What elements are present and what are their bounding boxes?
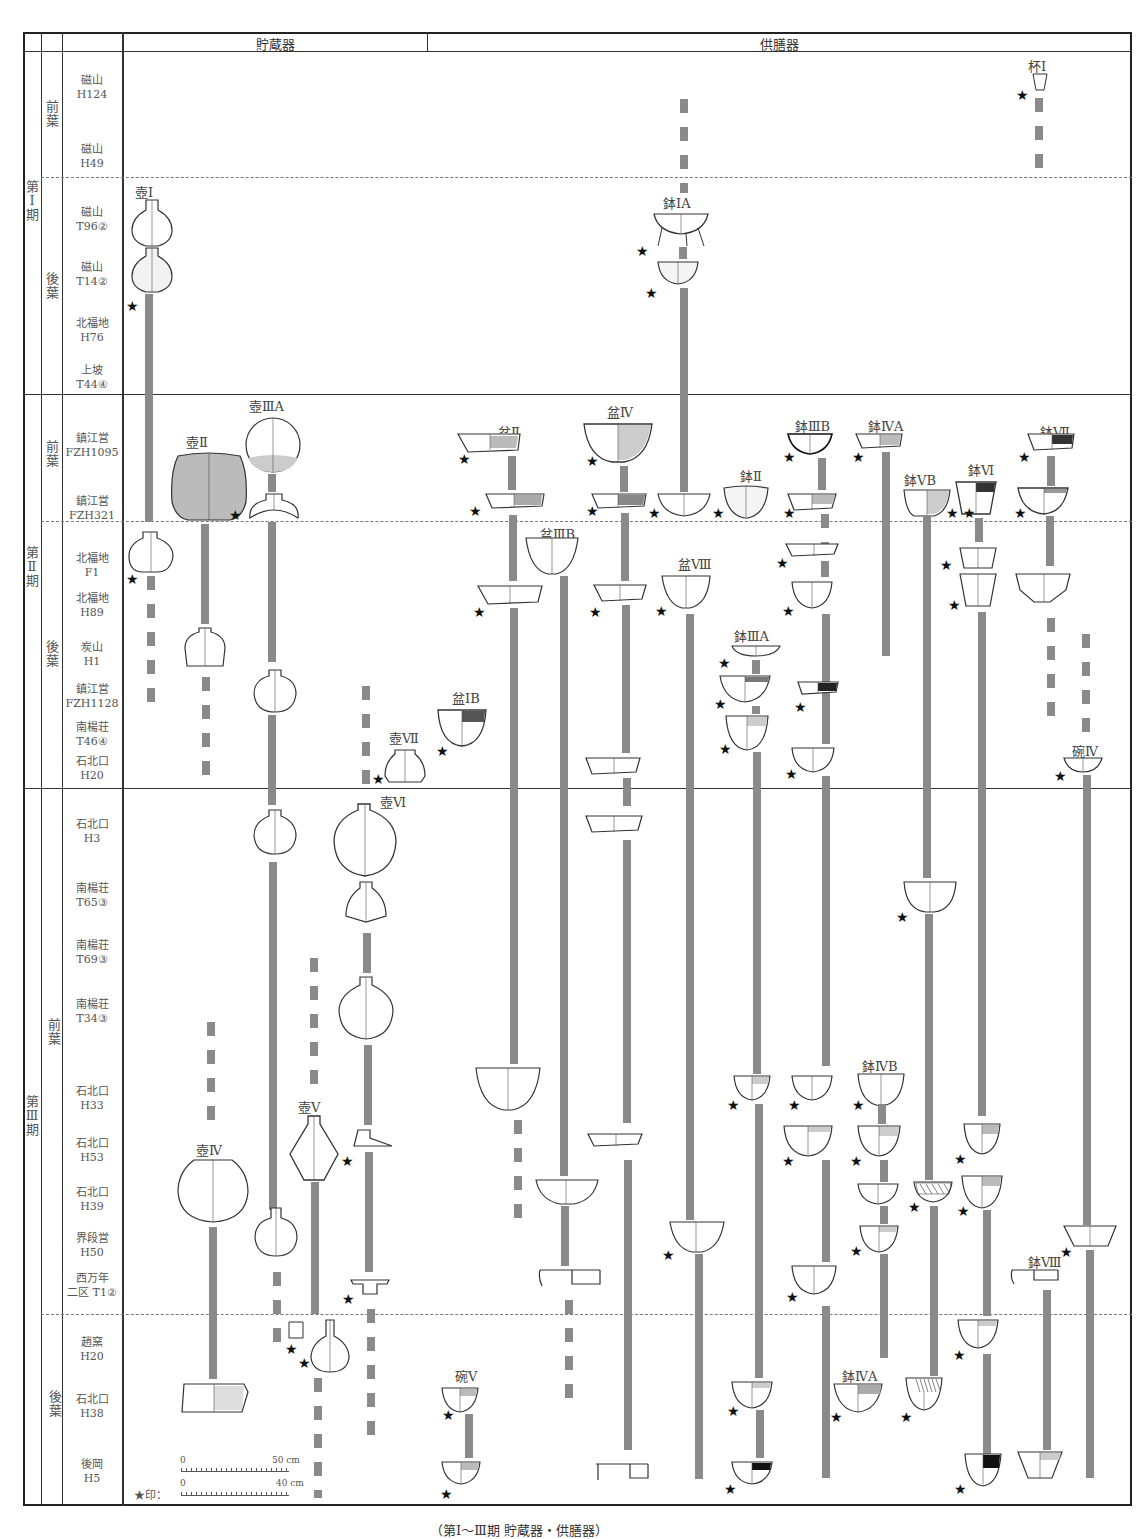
vessel-cup-icon	[1032, 73, 1048, 91]
continuity-bar	[363, 933, 371, 973]
vessel-jar-icon	[250, 808, 300, 858]
continuity-bar	[822, 776, 830, 1066]
vessel-jar-icon	[332, 802, 398, 878]
vessel-bowl-icon	[1016, 1450, 1064, 1480]
site-row: 石北口H20	[63, 755, 121, 783]
period-label-2: 第Ⅱ期	[24, 546, 40, 588]
continuity-bar	[880, 1160, 888, 1182]
continuity-bar	[561, 1206, 569, 1266]
continuity-bar	[930, 1206, 938, 1376]
type-label: 盆Ⅷ	[678, 554, 711, 573]
scale-bar-50cm	[181, 1466, 289, 1472]
continuity-bar	[623, 778, 631, 806]
type-label: 盆Ⅳ	[607, 402, 633, 421]
star-marker-icon: ★	[655, 604, 668, 618]
vessel-bowl-icon	[954, 480, 998, 518]
vessel-basin-icon	[476, 584, 544, 606]
site-row: 南楊荘T46④	[63, 721, 121, 749]
vessel-basin-icon	[594, 1462, 650, 1482]
vessel-tripod-bowl-icon	[656, 492, 712, 522]
subperiod-label-2a: 前葉	[44, 440, 60, 468]
period-label-1: 第Ⅰ期	[24, 180, 40, 222]
site-row: 南楊荘T34③	[63, 998, 121, 1026]
vessel-basin-icon	[534, 1178, 600, 1206]
vessel-bowl-icon	[902, 488, 952, 518]
continuity-bar	[752, 706, 760, 714]
star-marker-icon: ★	[776, 556, 789, 570]
star-marker-icon: ★	[727, 1404, 740, 1418]
star-marker-icon: ★	[953, 1348, 966, 1362]
vessel-basin-icon	[668, 1220, 726, 1254]
site-row: 上坡T44④	[63, 364, 121, 392]
vessel-jar-icon	[181, 626, 229, 670]
star-marker-icon: ★	[586, 454, 599, 468]
vessel-tripod-bowl-icon	[652, 212, 710, 248]
type-label: 壺Ⅱ	[186, 432, 208, 451]
vessel-basin-icon	[484, 492, 546, 510]
continuity-bar	[624, 1160, 632, 1450]
vessel-jar-icon	[309, 1318, 351, 1374]
star-marker-icon: ★	[442, 1408, 455, 1422]
vessel-basin-icon	[436, 708, 488, 748]
type-label: 鉢ⅠA	[663, 193, 691, 212]
continuity-bar	[923, 515, 931, 878]
site-row: 石北口H39	[63, 1186, 121, 1214]
continuity-bar	[1046, 516, 1054, 566]
continuity-bar	[882, 452, 890, 656]
continuity-bar	[1047, 456, 1055, 486]
continuity-bar	[508, 456, 516, 490]
star-marker-icon: ★	[298, 1356, 311, 1370]
vessel-stand-icon	[349, 1276, 391, 1296]
continuity-bar	[560, 576, 568, 1176]
site-row: 磁山T14②	[63, 261, 121, 289]
period-boundary-1-2	[23, 394, 1132, 395]
figure-caption: （第Ⅰ～Ⅲ期 貯蔵器・供膳器）	[430, 1520, 608, 1539]
continuity-bar	[880, 1206, 888, 1224]
site-row: 西万年二区 T1②	[63, 1272, 121, 1300]
star-marker-icon: ★	[783, 450, 796, 464]
vessel-jar-icon	[383, 748, 427, 784]
continuity-bar-dashed	[514, 1120, 522, 1224]
site-row: 磁山H124	[63, 74, 121, 102]
continuity-bar-dashed	[821, 514, 829, 544]
star-marker-icon: ★	[788, 1098, 801, 1112]
continuity-bar	[510, 608, 518, 1064]
vessel-bowl-icon	[856, 1182, 900, 1206]
star-marker-icon: ★	[636, 244, 649, 258]
star-marker-icon: ★	[957, 1204, 970, 1218]
site-row: 磁山H49	[63, 143, 121, 171]
star-marker-icon: ★	[896, 910, 909, 924]
continuity-bar-dashed	[367, 1309, 375, 1435]
continuity-bar	[311, 1182, 319, 1314]
period-boundary-2-3	[23, 788, 1132, 789]
continuity-bar	[753, 752, 761, 1074]
continuity-bar	[364, 1045, 372, 1125]
continuity-bar	[365, 1152, 373, 1272]
vessel-jar-icon	[337, 975, 395, 1041]
type-label: 鉢ⅢA	[734, 626, 769, 645]
scale-top-zero: 0	[180, 1455, 186, 1465]
site-row: 趙窯H20	[63, 1336, 121, 1364]
star-marker-icon: ★	[719, 742, 732, 756]
subperiod-label-3b: 後葉	[47, 1390, 63, 1418]
site-row: 石北口H33	[63, 1085, 121, 1113]
vessel-jar-icon	[288, 1114, 340, 1182]
vessel-jar-icon	[250, 668, 300, 714]
scale-bottom-zero: 0	[180, 1478, 186, 1488]
star-marker-icon: ★	[1060, 1245, 1073, 1259]
vessel-bowl-icon	[440, 1460, 482, 1486]
site-row: 北福地F1	[63, 552, 121, 580]
site-row: 石北口H3	[63, 818, 121, 846]
site-row: 鎮江営FZH321	[63, 495, 121, 523]
vessel-bowl-icon	[962, 1122, 1002, 1156]
site-row: 南楊荘T69③	[63, 939, 121, 967]
star-marker-icon: ★	[229, 508, 242, 522]
site-row: 北福地H89	[63, 592, 121, 620]
continuity-bar	[268, 474, 276, 492]
star-marker-icon: ★	[645, 286, 658, 300]
star-marker-icon: ★	[341, 1154, 354, 1168]
type-label: 盆ⅠB	[452, 688, 480, 707]
continuity-bar-dashed	[1047, 618, 1055, 718]
vessel-basin-icon	[586, 1132, 644, 1148]
continuity-bar	[509, 515, 517, 581]
